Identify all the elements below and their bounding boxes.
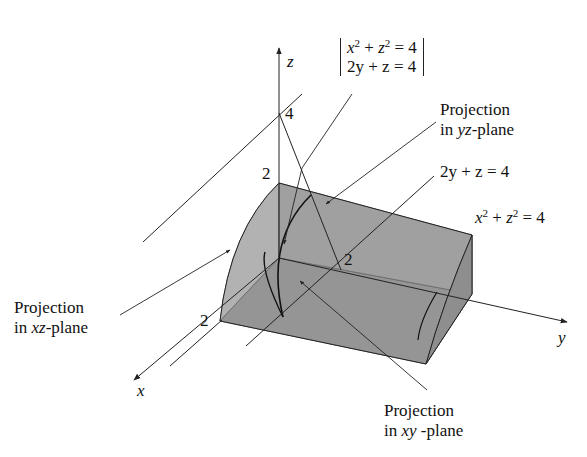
leader-system — [302, 94, 352, 168]
leader-proj-xz — [120, 250, 230, 315]
plane-equation-label: 2y + z = 4 — [440, 162, 509, 181]
proj-xy-label-1: Projection — [384, 401, 454, 420]
tick-y-2: 2 — [344, 250, 353, 269]
system-of-equations: x2 + z2 = 4 2y + z = 4 — [340, 38, 424, 76]
proj-xz-label-1: Projection — [14, 298, 84, 317]
tick-z-2: 2 — [262, 164, 271, 183]
cylinder-equation-label: x2 + z2 = 4 — [475, 208, 545, 227]
tick-z-4: 4 — [285, 104, 294, 123]
proj-xz-label-2: in xz-plane — [14, 318, 88, 337]
proj-yz-label-1: Projection — [440, 100, 510, 119]
x-axis-label: x — [137, 381, 145, 400]
leader-proj-yz — [326, 122, 436, 204]
proj-yz-label-2: in yz-plane — [440, 120, 514, 139]
proj-xy-label-2: in xy -plane — [384, 421, 463, 440]
z-axis-label: z — [287, 52, 294, 71]
system-eq2: 2y + z = 4 — [347, 57, 417, 76]
y-axis-label: y — [558, 328, 566, 347]
tick-x-2: 2 — [200, 311, 209, 330]
